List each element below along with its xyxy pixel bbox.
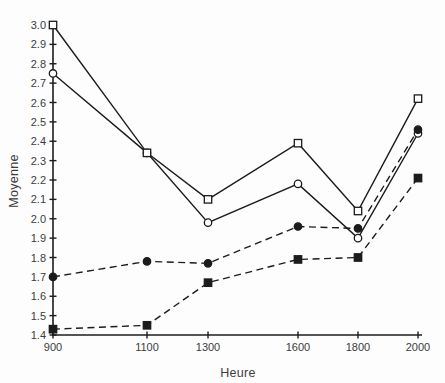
filled-circle-marker bbox=[143, 258, 150, 265]
x-tick-label: 1800 bbox=[346, 341, 370, 353]
y-tick-label: 1.6 bbox=[31, 290, 46, 302]
y-tick-label: 1.4 bbox=[31, 329, 46, 341]
open-circle-marker bbox=[354, 234, 361, 241]
line-chart-figure: 1.41.51.61.71.81.92.02.12.22.32.42.52.62… bbox=[0, 0, 445, 383]
y-tick-label: 2.7 bbox=[31, 77, 46, 89]
y-tick-label: 1.8 bbox=[31, 252, 46, 264]
open-square-marker bbox=[49, 21, 56, 28]
y-tick-label: 3.0 bbox=[31, 19, 46, 31]
x-tick-label: 1600 bbox=[286, 341, 310, 353]
filled-circle-marker bbox=[354, 225, 361, 232]
filled-square-marker bbox=[414, 174, 421, 181]
x-tick-label: 1300 bbox=[196, 341, 220, 353]
series-filled-circle-line bbox=[53, 130, 418, 277]
y-tick-label: 2.8 bbox=[31, 58, 46, 70]
y-tick-label: 2.5 bbox=[31, 116, 46, 128]
series-open-square-line bbox=[53, 25, 418, 211]
y-axis-title: Moyenne bbox=[7, 154, 21, 208]
y-tick-label: 2.0 bbox=[31, 213, 46, 225]
filled-square-marker bbox=[49, 325, 56, 332]
filled-square-marker bbox=[143, 322, 150, 329]
x-tick-label: 2000 bbox=[406, 341, 430, 353]
open-square-marker bbox=[354, 207, 361, 214]
line-chart-canvas: 1.41.51.61.71.81.92.02.12.22.32.42.52.62… bbox=[0, 0, 445, 383]
open-square-marker bbox=[143, 149, 150, 156]
x-tick-label: 1100 bbox=[135, 341, 159, 353]
y-tick-label: 2.6 bbox=[31, 97, 46, 109]
y-tick-label: 1.7 bbox=[31, 271, 46, 283]
open-square-marker bbox=[294, 139, 301, 146]
y-tick-label: 2.4 bbox=[31, 135, 46, 147]
filled-square-marker bbox=[354, 254, 361, 261]
y-tick-label: 1.9 bbox=[31, 232, 46, 244]
filled-square-marker bbox=[204, 279, 211, 286]
x-axis-title: Heure bbox=[220, 366, 256, 380]
x-tick-label: 900 bbox=[44, 341, 62, 353]
filled-square-marker bbox=[294, 256, 301, 263]
open-square-marker bbox=[204, 196, 211, 203]
filled-circle-marker bbox=[204, 260, 211, 267]
y-tick-label: 2.9 bbox=[31, 38, 46, 50]
filled-circle-marker bbox=[294, 223, 301, 230]
filled-circle-marker bbox=[414, 126, 421, 133]
open-circle-marker bbox=[204, 219, 211, 226]
open-circle-marker bbox=[49, 70, 56, 77]
y-tick-label: 2.3 bbox=[31, 155, 46, 167]
series-open-circle-line bbox=[53, 73, 418, 238]
y-tick-label: 2.1 bbox=[31, 193, 46, 205]
filled-circle-marker bbox=[49, 273, 56, 280]
open-circle-marker bbox=[294, 180, 301, 187]
y-tick-label: 1.5 bbox=[31, 310, 46, 322]
y-tick-label: 2.2 bbox=[31, 174, 46, 186]
open-square-marker bbox=[414, 95, 421, 102]
